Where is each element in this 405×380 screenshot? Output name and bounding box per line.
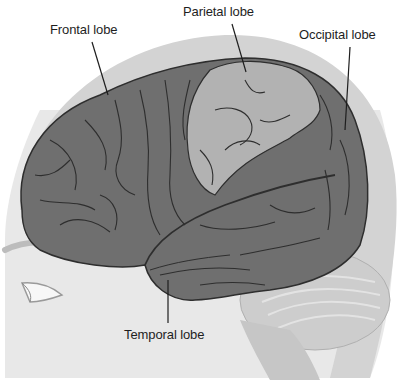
label-frontal-lobe: Frontal lobe <box>50 22 117 37</box>
label-temporal-lobe: Temporal lobe <box>124 327 204 342</box>
label-occipital-lobe: Occipital lobe <box>299 27 376 42</box>
label-parietal-lobe: Parietal lobe <box>183 4 254 19</box>
brain-illustration <box>0 0 405 380</box>
brain-diagram: Frontal lobe Parietal lobe Occipital lob… <box>0 0 405 380</box>
